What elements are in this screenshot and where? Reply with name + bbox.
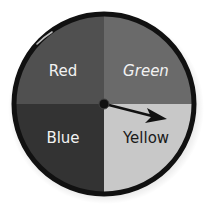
pivot-icon	[99, 99, 109, 109]
label-blue: Blue	[46, 129, 79, 147]
label-yellow: Yellow	[122, 129, 169, 147]
label-red: Red	[49, 62, 78, 80]
label-green: Green	[123, 62, 169, 80]
spinner: Red Green Blue Yellow	[0, 0, 208, 206]
